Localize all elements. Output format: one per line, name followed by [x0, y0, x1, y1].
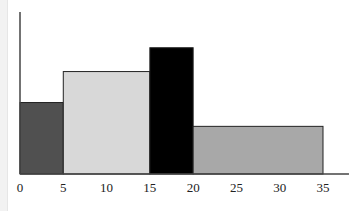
bar-5-15: [63, 72, 150, 174]
x-tick-label: 20: [187, 180, 200, 195]
x-tick-label: 30: [273, 180, 286, 195]
histogram-chart: 05101520253035: [0, 0, 359, 211]
x-tick-label: 5: [60, 180, 67, 195]
x-tick-labels: 05101520253035: [17, 180, 330, 195]
x-tick-label: 25: [230, 180, 243, 195]
x-tick-label: 0: [17, 180, 24, 195]
bars-group: [20, 48, 323, 174]
x-tick-label: 10: [100, 180, 113, 195]
x-tick-label: 15: [143, 180, 156, 195]
bar-20-35: [193, 126, 323, 174]
x-tick-label: 35: [317, 180, 330, 195]
bar-0-5: [20, 103, 63, 174]
bar-15-20: [150, 48, 193, 174]
